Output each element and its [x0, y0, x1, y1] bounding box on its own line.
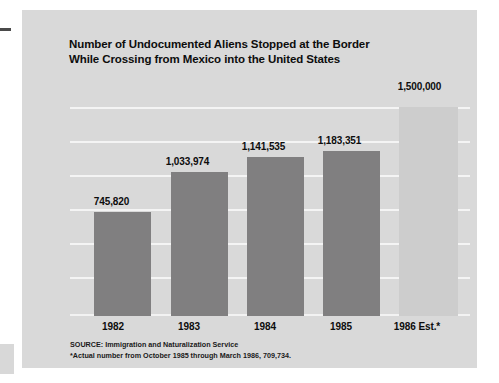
bar-1984 [247, 157, 304, 316]
bar-1986-est [399, 107, 458, 316]
category-label-1986-est: 1986 Est.* [377, 321, 457, 332]
value-label-1984: 1,141,535 [225, 141, 302, 152]
value-label-1982: 745,820 [75, 196, 148, 207]
scan-artifact-tick [0, 28, 11, 31]
bar-1985 [323, 151, 380, 316]
category-label-1985: 1985 [308, 321, 374, 332]
footnote-source: SOURCE: Immigration and Naturalization S… [70, 339, 291, 350]
value-label-1986-est: 1,500,000 [362, 81, 477, 92]
bar-1983 [171, 172, 228, 316]
category-label-1982: 1982 [80, 321, 146, 332]
value-label-1983: 1,033,974 [149, 156, 226, 167]
chart-panel: Number of Undocumented Aliens Stopped at… [22, 10, 477, 368]
category-label-1983: 1983 [156, 321, 222, 332]
category-label-1984: 1984 [232, 321, 298, 332]
scan-artifact-block [0, 344, 14, 374]
bar-1982 [94, 212, 151, 316]
chart-title-line-2: While Crossing from Mexico into the Unit… [69, 52, 459, 67]
footnote-estimate-note: *Actual number from October 1985 through… [70, 350, 291, 361]
chart-title-line-1: Number of Undocumented Aliens Stopped at… [69, 37, 459, 52]
footnotes: SOURCE: Immigration and Naturalization S… [70, 339, 291, 361]
chart-title: Number of Undocumented Aliens Stopped at… [69, 37, 459, 66]
value-label-1985: 1,183,351 [301, 135, 378, 146]
